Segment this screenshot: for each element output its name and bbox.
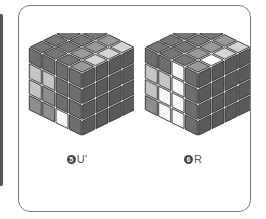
move-notation: R (194, 153, 202, 165)
step-6: 6R (135, 6, 251, 211)
diagram-panel: 5U' 6R (18, 5, 251, 212)
move-notation: U' (77, 153, 87, 165)
step-number-badge: 6 (184, 155, 193, 164)
left-edge-bar (0, 14, 3, 186)
step-label: 5U' (19, 153, 135, 165)
cube-icon (24, 33, 134, 145)
cube-icon (140, 33, 250, 145)
step-label: 6R (135, 153, 251, 165)
step-5: 5U' (19, 6, 135, 211)
step-number-badge: 5 (67, 155, 76, 164)
